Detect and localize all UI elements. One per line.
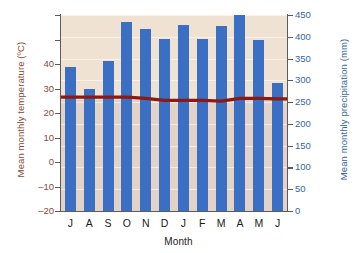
month-label-3: O [119, 217, 135, 229]
right-axis-tick-label: 300 [295, 75, 311, 85]
left-axis-tick-label: –10 [38, 182, 54, 192]
left-axis-tick-label: 20 [43, 108, 54, 118]
climate-chart: Mean monthly temperature (ºC) Mean month… [0, 0, 357, 253]
month-label-1: A [81, 217, 97, 229]
month-label-8: M [213, 217, 229, 229]
x-axis-title: Month [0, 236, 357, 247]
left-axis-tick [55, 15, 61, 16]
right-axis-tick [287, 211, 293, 212]
left-axis-tick [55, 113, 61, 114]
right-axis-tick [287, 102, 293, 103]
month-label-7: F [194, 217, 210, 229]
right-axis-tick [287, 189, 293, 190]
left-axis-tick [55, 211, 61, 212]
month-label-10: M [251, 217, 267, 229]
right-axis-tick-label: 350 [295, 54, 311, 64]
left-axis-tick [55, 187, 61, 188]
right-axis-tick [287, 37, 293, 38]
left-axis-tick [55, 40, 61, 41]
month-label-11: J [270, 217, 286, 229]
right-axis-spine [287, 14, 288, 212]
left-axis-tick [55, 64, 61, 65]
right-axis-tick-label: 250 [295, 97, 311, 107]
left-axis-tick [55, 162, 61, 163]
month-label-6: J [175, 217, 191, 229]
month-label-4: N [138, 217, 154, 229]
right-axis-tick [287, 15, 293, 16]
left-axis-tick-label: 40 [43, 59, 54, 69]
right-axis-tick-label: 200 [295, 119, 311, 129]
right-axis-tick-label: 0 [295, 206, 300, 216]
right-axis-tick [287, 124, 293, 125]
plot-area [61, 15, 287, 211]
right-axis-tick [287, 146, 293, 147]
right-axis-tick [287, 167, 293, 168]
left-axis-tick-label: 0 [49, 157, 54, 167]
y-axis-left-title: Mean monthly temperature (ºC) [15, 20, 26, 200]
right-axis-tick-label: 450 [295, 10, 311, 20]
left-axis-tick [55, 89, 61, 90]
bottom-axis-spine [60, 211, 289, 212]
left-axis-tick-label: 10 [43, 133, 54, 143]
right-axis-tick [287, 59, 293, 60]
left-axis-tick-label: –20 [38, 206, 54, 216]
right-axis-tick-label: 400 [295, 32, 311, 42]
right-axis-tick-label: 100 [295, 162, 311, 172]
left-axis-tick [55, 138, 61, 139]
right-axis-tick-label: 150 [295, 141, 311, 151]
month-label-9: A [232, 217, 248, 229]
temperature-line [61, 15, 287, 211]
month-label-0: J [62, 217, 78, 229]
month-label-2: S [100, 217, 116, 229]
y-axis-right-title: Mean monthly precipitation (mm) [338, 20, 349, 200]
right-axis-tick [287, 80, 293, 81]
left-axis-tick-label: 30 [43, 84, 54, 94]
month-label-5: D [157, 217, 173, 229]
right-axis-tick-label: 50 [295, 184, 306, 194]
